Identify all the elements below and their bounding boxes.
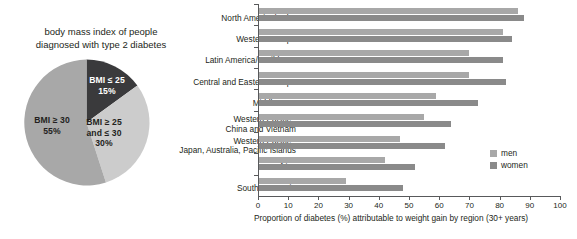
legend-swatch-women [490,162,497,169]
bar-women [258,185,403,191]
bar-men [258,136,400,142]
y-axis-tick [254,132,258,133]
x-axis-tick-label: 40 [374,201,383,210]
bar-men [258,50,469,56]
pie-label-bmi-25-to-30-value: 30% [95,138,113,148]
x-axis-tick-label: 20 [314,201,323,210]
bar-men [258,29,503,35]
bar-women [258,164,415,170]
pie-label-bmi-25-to-30: BMI ≥ 25 and ≤ 30 30% [73,117,135,149]
bar-women [258,100,478,106]
bar-men [258,114,424,120]
x-axis-tick-label: 90 [525,201,534,210]
pie-label-bmi-ge-30-name: BMI ≥ 30 [34,115,70,125]
x-axis-tick-label: 30 [344,201,353,210]
bar-men [258,8,518,14]
x-axis-tick [379,196,380,200]
bar-women [258,79,506,85]
x-axis-tick [469,196,470,200]
pie-label-bmi-25-to-30-name-1: BMI ≥ 25 [86,117,122,127]
y-axis-line [258,4,259,196]
bar-women [258,143,445,149]
pie-label-bmi-ge-30-value: 55% [43,126,61,136]
pie-label-bmi-25-to-30-name-2: and ≤ 30 [86,128,121,138]
x-axis-tick-label: 80 [495,201,504,210]
pie-chart-title-line-1: body mass index of people [44,26,157,37]
bar-women [258,36,512,42]
y-axis-tick [254,175,258,176]
x-axis-tick [258,196,259,200]
chart-legend: men women [490,148,528,172]
y-axis-tick [254,153,258,154]
y-axis-tick [254,68,258,69]
pie-label-bmi-le-25-value: 15% [98,86,116,96]
legend-swatch-men [490,150,497,157]
x-axis-tick [409,196,410,200]
bar-men [258,157,385,163]
bar-men [258,178,346,184]
x-axis-tick-label: 100 [553,201,566,210]
bar-men [258,72,469,78]
x-axis-title: Proportion of diabetes (%) attributable … [205,213,577,223]
legend-item-women: women [490,160,528,170]
x-axis-tick [439,196,440,200]
y-axis-tick [254,89,258,90]
bar-women [258,121,451,127]
x-axis-tick-label: 70 [465,201,474,210]
x-axis-tick-label: 60 [435,201,444,210]
x-axis-tick-label: 0 [256,201,260,210]
bar-women [258,57,503,63]
x-axis-tick [349,196,350,200]
pie-label-bmi-le-25: BMI ≤ 25 15% [76,75,138,96]
pie-chart-title-line-2: diagnosed with type 2 diabetes [36,39,166,50]
diabetes-bar-chart-panel: North America/CubaWestern EuropeLatin Am… [205,0,577,239]
pie-chart-graphic: BMI ≤ 25 15% BMI ≥ 25 and ≤ 30 30% BMI ≥… [21,57,152,188]
y-axis-tick [254,111,258,112]
x-axis-tick [500,196,501,200]
legend-label-men: men [501,148,517,158]
y-axis-tick [254,4,258,5]
x-axis-tick-label: 10 [284,201,293,210]
y-axis-tick [254,25,258,26]
y-axis-tick [254,47,258,48]
pie-label-bmi-le-25-name: BMI ≤ 25 [89,75,125,85]
bar-men [258,93,436,99]
legend-label-women: women [501,160,528,170]
x-axis-tick [318,196,319,200]
pie-label-bmi-ge-30: BMI ≥ 30 55% [23,115,81,136]
x-axis-tick [288,196,289,200]
legend-item-men: men [490,148,528,158]
x-axis-tick-label: 50 [405,201,414,210]
x-axis-tick [560,196,561,200]
bar-women [258,15,524,21]
x-axis-tick [530,196,531,200]
